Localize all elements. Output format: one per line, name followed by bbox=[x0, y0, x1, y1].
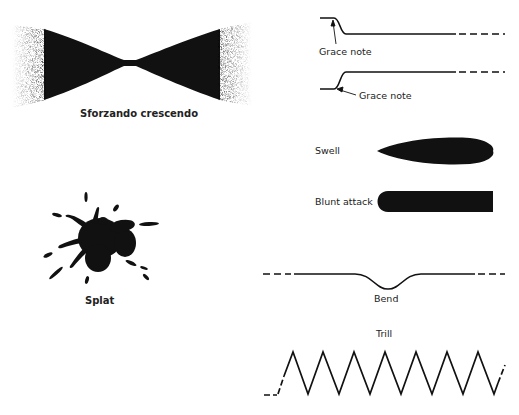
grace-note-arrow-icon bbox=[331, 20, 336, 44]
swell-label: Swell bbox=[315, 146, 340, 156]
bend-line bbox=[263, 274, 505, 289]
grace-note-down-line bbox=[320, 18, 505, 34]
splat-shape bbox=[43, 192, 159, 284]
grace-note-label-1: Grace note bbox=[319, 47, 372, 57]
splat-label: Splat bbox=[85, 296, 114, 306]
bend-label: Bend bbox=[374, 294, 398, 304]
swell-shape bbox=[377, 138, 493, 165]
sforzando-crescendo-shape bbox=[12, 22, 252, 108]
sforzando-crescendo-label: Sforzando crescendo bbox=[80, 109, 198, 119]
trill-label: Trill bbox=[376, 329, 392, 339]
grace-note-up-line bbox=[320, 72, 505, 89]
grace-note-label-2: Grace note bbox=[359, 91, 412, 101]
blunt-attack-shape bbox=[378, 191, 494, 212]
grace-note-arrow-icon bbox=[337, 87, 356, 95]
diagram-canvas bbox=[0, 0, 519, 415]
trill-zigzag bbox=[264, 352, 505, 395]
blunt-attack-label: Blunt attack bbox=[315, 197, 373, 207]
